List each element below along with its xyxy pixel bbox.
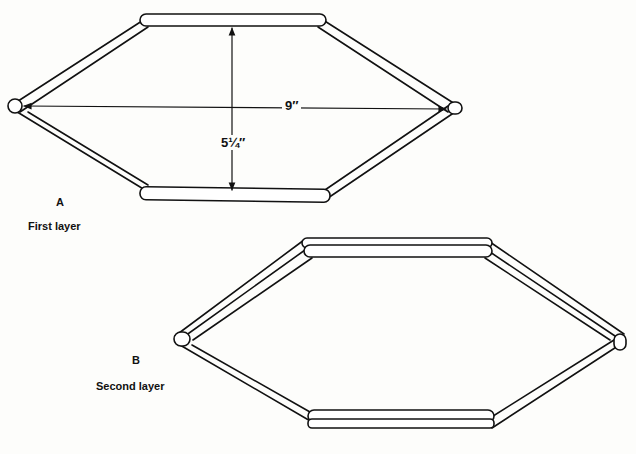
figure-b-caption: Second layer xyxy=(96,380,164,392)
first-layer-hexagon xyxy=(8,14,462,202)
diagram: 9″ 5¼″ A First layer B Second layer xyxy=(0,0,636,454)
width-dimension: 9″ xyxy=(282,98,301,113)
second-layer-hexagon xyxy=(174,238,626,428)
height-dimension: 5¼″ xyxy=(218,135,248,150)
figure-a-letter: A xyxy=(56,196,64,208)
figure-b-letter: B xyxy=(132,354,140,366)
figure-a-caption: First layer xyxy=(28,220,81,232)
